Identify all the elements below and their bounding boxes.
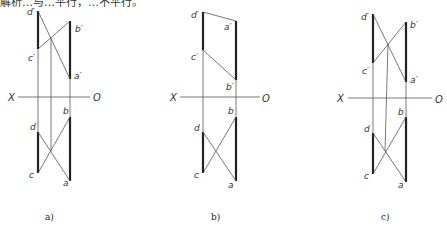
segment-da (203, 132, 236, 181)
label-a: a (63, 178, 69, 188)
segment-cb (373, 117, 406, 174)
caption-b: b) (211, 212, 220, 222)
axis-o-label: O (435, 94, 443, 105)
projection-diagrams: X O d′ c′ b′ a′ d c b a a) X O (0, 0, 447, 229)
label-d: d (194, 123, 200, 133)
label-a: a (398, 180, 404, 190)
figure-a: X O d′ c′ b′ a′ d c b a a) (7, 7, 101, 222)
figure-c: X O d′ c′ b′ a′ d c b a c) (336, 12, 443, 222)
segment-cb (203, 117, 236, 173)
label-c: c (364, 171, 369, 181)
segment-d-a-prime (203, 12, 236, 21)
label-d: d (364, 124, 370, 134)
label-b: b (228, 106, 234, 116)
label-b-prime: b′ (75, 24, 83, 34)
axis-x-label: X (7, 92, 16, 103)
label-b: b (398, 107, 404, 117)
axis-o-label: O (93, 92, 101, 103)
label-b: b (63, 106, 69, 116)
label-a: a (228, 180, 234, 190)
label-c: c (194, 170, 199, 180)
axis-x-label: X (336, 93, 345, 104)
label-b-prime: b′ (226, 82, 234, 92)
segment-da (373, 133, 406, 182)
segment-da (38, 132, 70, 181)
label-d: d (30, 122, 36, 132)
segment-cb (38, 117, 70, 173)
axis-o-label: O (262, 93, 270, 104)
figure-b: X O d′ a′ c′ b′ d c b a b) (169, 10, 270, 222)
segment-c-b-prime (203, 50, 236, 80)
label-a-prime: a′ (224, 22, 232, 32)
label-a-prime: a′ (410, 75, 418, 85)
label-a-prime: a′ (74, 71, 82, 81)
segment-d-a-prime (373, 14, 406, 82)
label-b-prime: b′ (410, 20, 418, 30)
projection-line (385, 44, 388, 151)
caption-a: a) (45, 212, 54, 222)
label-c: c (29, 170, 34, 180)
label-d-prime: d′ (191, 10, 199, 20)
caption-c: c) (381, 212, 390, 222)
segment-c-b-prime (373, 22, 406, 63)
label-c-prime: c′ (28, 53, 35, 63)
label-c-prime: c′ (191, 52, 198, 62)
label-d-prime: d′ (361, 12, 369, 22)
axis-x-label: X (169, 92, 178, 103)
label-d-prime: d′ (27, 7, 35, 17)
label-c-prime: c′ (362, 66, 369, 76)
